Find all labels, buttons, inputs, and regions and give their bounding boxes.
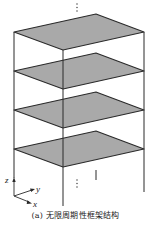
continuation-top (76, 3, 77, 11)
y-axis-label: y (35, 184, 40, 194)
y-axis (14, 190, 32, 196)
frame-structure-diagram: z y x (0, 0, 151, 227)
slab-level-4 (14, 14, 144, 50)
coordinate-axes (12, 177, 35, 204)
continuation-bottom (76, 179, 77, 187)
slab-level-3 (14, 53, 144, 89)
slabs (14, 14, 144, 167)
x-axis-label: x (32, 199, 37, 209)
z-axis-label: z (4, 175, 9, 185)
x-axis (14, 196, 29, 202)
slab-level-1 (14, 131, 144, 167)
slab-level-2 (14, 92, 144, 128)
figure-caption: (a) 无限周期性框架结构 (0, 209, 151, 220)
